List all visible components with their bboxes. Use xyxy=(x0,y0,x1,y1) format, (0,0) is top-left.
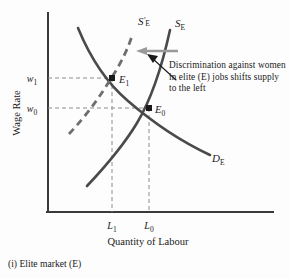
supply-shift-arrow xyxy=(136,47,178,55)
y-axis-title: Wage Rate xyxy=(11,90,22,136)
discrimination-annotation: Discrimination against women in elite (E… xyxy=(169,60,287,95)
figure-caption: (i) Elite market (E) xyxy=(8,258,81,269)
y-tick-label-w0: w0 xyxy=(27,103,38,117)
economics-diagram-svg: S′E SE DE E1 E0 w1 w0 L1 L0 Wage R xyxy=(0,0,290,278)
equilibrium-point-1-label: E1 xyxy=(118,74,129,88)
x-axis-title: Quantity of Labour xyxy=(107,236,189,247)
y-tick-label-w1: w1 xyxy=(27,73,38,87)
x-tick-label-L1: L1 xyxy=(106,220,117,234)
elite-market-figure: S′E SE DE E1 E0 w1 w0 L1 L0 Wage R xyxy=(0,0,290,278)
guide-lines-group xyxy=(48,78,149,212)
supply-shifted-curve xyxy=(69,36,132,134)
demand-curve-label: DE xyxy=(211,152,225,167)
supply-curve-label: SE xyxy=(175,17,186,32)
equilibrium-point-1-marker xyxy=(109,75,115,81)
supply-shifted-curve-label: S′E xyxy=(138,15,150,28)
x-tick-label-L0: L0 xyxy=(143,220,154,234)
equilibrium-point-0-label: E0 xyxy=(154,104,165,118)
equilibrium-point-0-marker xyxy=(146,105,152,111)
